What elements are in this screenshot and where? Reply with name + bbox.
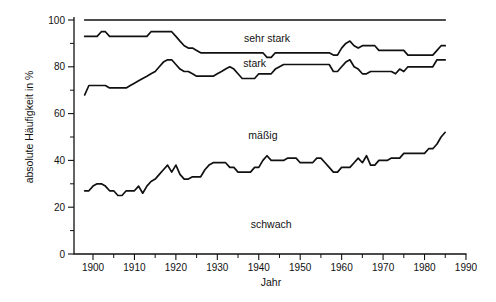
region-label-maessig: mäßig [248,129,277,141]
svg-text:1930: 1930 [206,262,229,273]
svg-text:1920: 1920 [165,262,188,273]
svg-text:1990: 1990 [455,262,478,273]
svg-text:1900: 1900 [82,262,105,273]
svg-text:1940: 1940 [248,262,271,273]
svg-text:40: 40 [54,155,66,166]
svg-text:100: 100 [48,15,65,26]
region-label-sehr-stark: sehr stark [244,32,290,44]
region-label-stark: stark [243,57,266,69]
x-axis-title: Jahr [261,276,281,288]
svg-text:20: 20 [54,202,66,213]
svg-text:1950: 1950 [289,262,312,273]
y-axis-title: absolute Häufigkeit in % [23,71,35,184]
chart-figure: 0204060801001900191019201930194019501960… [0,0,496,302]
chart-canvas: 0204060801001900191019201930194019501960… [0,0,496,302]
svg-text:1910: 1910 [123,262,146,273]
svg-text:1970: 1970 [372,262,395,273]
svg-text:1980: 1980 [413,262,436,273]
svg-text:0: 0 [59,249,65,260]
svg-text:80: 80 [54,61,66,72]
region-label-schwach: schwach [251,218,292,230]
svg-text:60: 60 [54,108,66,119]
svg-text:1960: 1960 [331,262,354,273]
